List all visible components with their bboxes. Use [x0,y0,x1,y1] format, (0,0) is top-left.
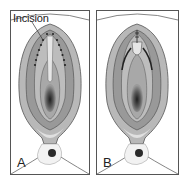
incision-label: Incision [13,13,49,24]
clitoral-hood [47,36,53,82]
anus [135,149,143,157]
panel-a-illustration [10,10,90,175]
panel-label-b: B [103,156,112,169]
panel-b-illustration [96,10,179,175]
vaginal-opening [44,84,56,112]
clitoral-glans [132,42,142,55]
panel-label-a: A [17,156,26,169]
anus [48,149,56,157]
panel-b: B [96,10,179,175]
panel-a: Incision A [10,10,90,175]
vaginal-opening [131,84,143,112]
